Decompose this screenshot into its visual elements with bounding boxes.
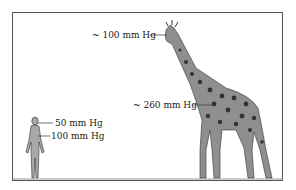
- label-giraffe-head: ~ 100 mm Hg: [92, 30, 156, 40]
- label-human-head: 50 mm Hg: [55, 118, 103, 128]
- illustration: [0, 0, 296, 190]
- giraffe-figure: [165, 20, 272, 178]
- label-giraffe-heart: ~ 260 mm Hg: [133, 100, 197, 110]
- human-figure: [26, 117, 44, 178]
- label-human-heart: 100 mm Hg: [51, 131, 105, 141]
